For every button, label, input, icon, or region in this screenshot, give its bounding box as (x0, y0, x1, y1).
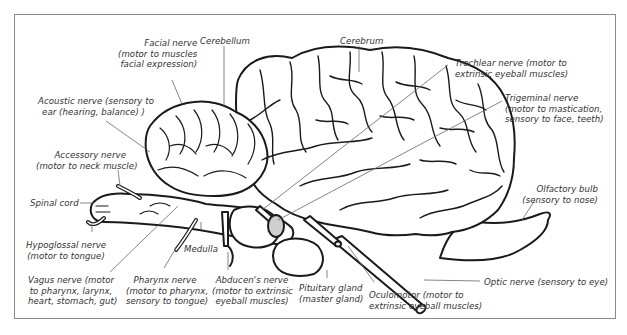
label-cerebrum: Cerebrum (340, 36, 383, 47)
label-facial-nerve: Facial nerve (motor to muscles facial ex… (118, 38, 197, 70)
label-trochlear-nerve: Trochlear nerve (motor to extrinsic eyeb… (455, 58, 568, 79)
label-hypoglossal-nerve: Hypoglossal nerve (motor to tongue) (26, 240, 106, 261)
abducens-shape (222, 212, 228, 246)
label-trigeminal-nerve: Trigeminal nerve (motor to mastication, … (505, 93, 604, 125)
label-olfactory-bulb: Olfactory bulb (sensory to nose) (500, 184, 598, 205)
label-pituitary-gland: Pituitary gland (master gland) (299, 283, 363, 304)
label-medulla: Medulla (184, 244, 218, 255)
leader-accessory (118, 170, 120, 186)
label-oculomotor: Oculomotor (motor to extrinsic eyeball m… (369, 290, 482, 311)
label-cerebellum: Cerebellum (200, 36, 250, 47)
label-optic-nerve: Optic nerve (sensory to eye) (484, 277, 608, 288)
leader-pharynx (164, 248, 176, 268)
label-vagus-nerve: Vagus nerve (motor to pharynx, larynx, h… (28, 275, 114, 307)
pituitary-shape (273, 239, 323, 276)
label-acoustic-nerve: Acoustic nerve (sensory to ear (hearing,… (38, 96, 145, 117)
label-abducens-nerve: Abducen's nerve (motor to extrinsic eyeb… (212, 275, 292, 307)
label-pharynx-nerve: Pharynx nerve (motor to pharynx, sensory… (126, 275, 204, 307)
label-accessory-nerve: Accessory nerve (motor to neck muscle) (36, 150, 126, 171)
leader-facial (172, 80, 182, 104)
label-spinal-cord: Spinal cord (30, 198, 79, 209)
leader-acoustic (106, 121, 150, 152)
leader-optic (424, 280, 480, 281)
